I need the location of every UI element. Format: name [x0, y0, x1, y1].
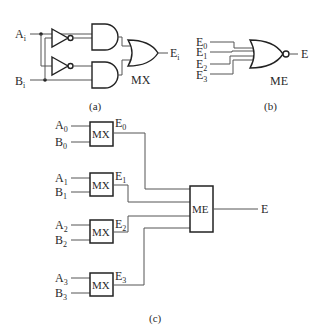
mx3-input-wires	[71, 278, 90, 293]
and-gate-1-icon	[92, 24, 118, 50]
input-a0-label: A0	[55, 118, 68, 134]
output-e-label: Ei	[170, 46, 180, 62]
output-e3-label: E3	[115, 269, 126, 285]
nor-gate-bubble	[283, 51, 289, 57]
output-e-label-c: E	[261, 202, 268, 216]
caption-a: (a)	[89, 100, 102, 113]
input-b2-label: B2	[55, 233, 67, 249]
input-a-label: Ai	[15, 27, 27, 43]
input-a3-label: A3	[55, 271, 68, 287]
mx0-label: MX	[92, 128, 110, 140]
wire-e0	[210, 42, 254, 48]
wire-e1	[210, 51, 255, 52]
mx-block-3: A3 B3 MX E3	[55, 228, 190, 302]
mx-gate-label: MX	[131, 73, 151, 87]
inverter-2-icon	[52, 57, 68, 75]
me-gate-label: ME	[270, 74, 288, 88]
me-label: ME	[192, 203, 209, 215]
caption-b: (b)	[264, 100, 277, 113]
input-a2-label: A2	[55, 218, 68, 234]
output-e1-label: E1	[115, 169, 126, 185]
input-b3-label: B3	[55, 286, 67, 302]
or-gate-icon	[128, 40, 158, 66]
output-e0-label: E0	[115, 116, 126, 132]
comparator-diagram: Ai Bi Ei MX (a) E0	[0, 0, 322, 329]
wire-e3	[210, 60, 254, 74]
diagram-c-block: A0 B0 MX E0 A1 B1 MX E1 A2 B2 MX E2	[55, 116, 268, 325]
inverter-2-bubble	[68, 64, 73, 69]
input-b1-label: B1	[55, 185, 67, 201]
caption-c: (c)	[149, 312, 162, 325]
wire-a-to-inv2	[41, 34, 52, 66]
mx2-input-wires	[71, 225, 90, 240]
inverter-1-icon	[52, 29, 68, 47]
mx0-input-wires	[71, 126, 90, 142]
input-b-label: Bi	[15, 74, 26, 90]
mx1-label: MX	[92, 179, 110, 191]
nor-gate-icon	[250, 40, 283, 68]
mx-block-2: A2 B2 MX E2	[55, 216, 190, 249]
diagram-b-me-circuit: E0 E1 E2 E3 E ME (b)	[196, 35, 308, 113]
inverter-1-bubble	[68, 36, 73, 41]
wire-e1-to-me	[113, 185, 190, 202]
output-e-label-b: E	[301, 47, 308, 61]
mx3-label: MX	[92, 279, 110, 291]
input-b0-label: B0	[55, 135, 67, 151]
mx2-label: MX	[92, 226, 110, 238]
and-gate-2-icon	[92, 62, 118, 88]
wire-b-to-inv1	[45, 38, 52, 80]
output-e2-label: E2	[115, 217, 126, 233]
mx-block-1: A1 B1 MX E1	[55, 169, 190, 202]
mx1-input-wires	[71, 178, 90, 192]
diagram-a-mx-circuit: Ai Bi Ei MX (a)	[15, 24, 180, 113]
